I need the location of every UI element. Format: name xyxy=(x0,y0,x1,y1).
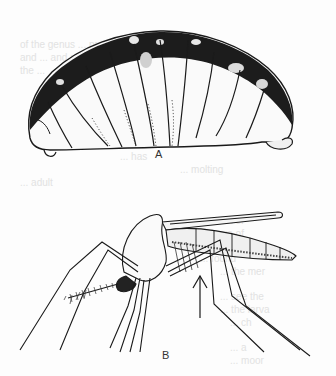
figure-label-a: A xyxy=(155,148,162,160)
mosquito-illustration xyxy=(0,180,336,376)
document-page: of the genus ... pre and ... and a the .… xyxy=(0,0,336,376)
figure-a: A xyxy=(0,0,336,180)
larva-illustration xyxy=(0,0,336,180)
arrow-up-icon xyxy=(193,276,207,318)
figure-b: B xyxy=(0,180,336,376)
figure-label-b: B xyxy=(162,349,169,361)
